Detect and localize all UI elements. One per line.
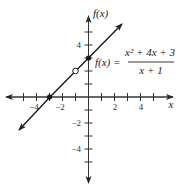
function-line bbox=[19, 24, 122, 130]
y-tick-label: 4 bbox=[77, 40, 82, 50]
function-graph: −4 −2 2 4 x 4 −2 −4 f(x) bbox=[0, 0, 180, 184]
y-tick-label: −4 bbox=[71, 144, 81, 154]
open-point-hole bbox=[73, 68, 79, 74]
formula-denominator: x + 1 bbox=[138, 64, 162, 76]
y-axis-label: f(x) bbox=[93, 7, 109, 20]
x-tick-label: −2 bbox=[55, 102, 65, 112]
x-tick-label: 2 bbox=[113, 102, 118, 112]
y-tick-label: −2 bbox=[71, 118, 81, 128]
function-formula: f(x) = x² + 4x + 3 x + 1 bbox=[95, 46, 175, 76]
formula-numerator: x² + 4x + 3 bbox=[124, 46, 175, 58]
formula-lhs: f(x) = bbox=[95, 56, 120, 69]
x-axis-label: x bbox=[168, 98, 174, 110]
closed-point-y-intercept bbox=[86, 55, 91, 60]
y-axis: 4 −2 −4 f(x) bbox=[71, 7, 108, 183]
x-tick-label: 4 bbox=[139, 102, 144, 112]
closed-point-x-intercept bbox=[47, 94, 52, 99]
x-axis: −4 −2 2 4 x bbox=[6, 93, 174, 112]
